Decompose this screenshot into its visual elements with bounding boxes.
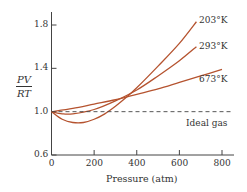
x-tick-label: 600 [171, 159, 188, 168]
y-tick-label: 0.6 [34, 150, 48, 159]
x-tick-label: 800 [214, 159, 231, 168]
series-label: 203°K [199, 16, 227, 25]
series-label: Ideal gas [186, 119, 228, 128]
x-tick-label: 400 [128, 159, 145, 168]
y-tick-label: 1.8 [34, 20, 48, 29]
series-lines [52, 22, 233, 123]
y-axis-label-numerator: PV [16, 75, 32, 87]
y-tick-label: 1.4 [34, 63, 48, 72]
x-tick-label: 0 [49, 159, 55, 168]
x-axis-label: Pressure (atm) [106, 174, 178, 184]
series-label: 673°K [199, 75, 227, 84]
series-label: 293°K [199, 42, 227, 51]
y-axis-label-denominator: RT [16, 89, 32, 99]
y-tick-label: 1.0 [34, 107, 48, 116]
series-line-293K [52, 47, 197, 115]
x-tick-label: 200 [86, 159, 103, 168]
